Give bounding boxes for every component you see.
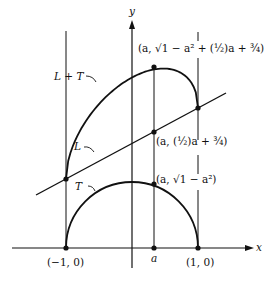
x-axis-label: x: [256, 241, 262, 253]
right-point-label: (1, 0): [186, 256, 214, 268]
y-axis-label: y: [128, 5, 136, 17]
diagram-canvas: y x L + T L T (−1, 0) (1, 0) a (a, √1 − …: [0, 0, 270, 282]
a-label: a: [151, 252, 157, 264]
point-line: [151, 129, 156, 134]
point-a: [151, 245, 156, 250]
x-axis-arrow-icon: [245, 245, 254, 251]
semi-point-label: (a, √1 − a²): [156, 173, 216, 185]
sum-curve-label: L + T: [53, 70, 84, 82]
left-point-label: (−1, 0): [47, 256, 84, 268]
top-point-label: (a, √1 − a² + (½)a + ¾): [138, 42, 264, 54]
point-top: [151, 64, 156, 69]
point-right-L: [195, 105, 200, 110]
point-left-L: [63, 176, 68, 181]
point-right: [195, 245, 200, 250]
y-axis-arrow-icon: [129, 20, 135, 29]
line-label: L: [73, 140, 81, 152]
point-left: [63, 245, 68, 250]
line-point-label: (a, (½)a + ¾): [156, 135, 227, 147]
semicircle-label: T: [75, 180, 83, 192]
